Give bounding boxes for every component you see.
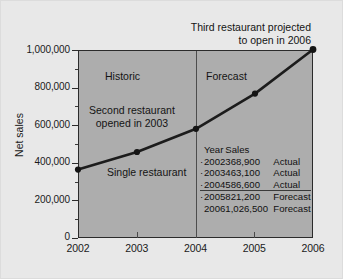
y-tick-mark-600000 xyxy=(72,125,78,126)
inset-data-table: Year Sales ·2002368,900Actual·2003463,10… xyxy=(200,144,311,215)
table-row: ·2003463,100Actual xyxy=(200,167,311,179)
y-tick-mark-400000 xyxy=(72,163,78,164)
x-tick-label-2006: 2006 xyxy=(290,242,336,254)
table-cell-sales: 821,200 xyxy=(225,191,273,203)
table-cell-year: 2006 xyxy=(204,203,225,215)
table-cell-sales: 463,100 xyxy=(225,167,273,179)
table-cell-status: Actual xyxy=(273,179,310,191)
table-cell-status: Actual xyxy=(273,167,310,179)
x-tick-label-2004: 2004 xyxy=(173,242,219,254)
table-cell-year: 2005 xyxy=(204,191,225,203)
y-tick-minor-100000 xyxy=(75,219,78,220)
annotation-third-restaurant-line1: Third restaurant projected xyxy=(191,21,311,34)
x-tick-label-2002: 2002 xyxy=(55,242,101,254)
y-tick-minor-500000 xyxy=(75,144,78,145)
table-header-sales: Sales xyxy=(225,144,273,156)
y-tick-label-200000: 200,000 xyxy=(35,195,70,205)
annotation-third-restaurant-line2: to open in 2006 xyxy=(191,34,311,47)
y-tick-mark-800000 xyxy=(72,88,78,89)
annotation-third-restaurant: Third restaurant projected to open in 20… xyxy=(191,21,311,46)
y-tick-label-1000000: 1,000,000 xyxy=(26,45,70,55)
table-row: ·2005821,200Forecast xyxy=(200,191,311,203)
y-tick-mark-1000000 xyxy=(72,50,78,51)
annotation-second-restaurant-line1: Second restaurant xyxy=(89,104,175,117)
table-cell-status: Actual xyxy=(273,156,310,168)
y-axis-label: Net sales xyxy=(13,100,25,170)
table-cell-sales: 1,026,500 xyxy=(225,203,273,215)
table-header-status xyxy=(273,144,310,156)
annotation-single-restaurant: Single restaurant xyxy=(107,166,186,179)
chart-figure: Net sales 1,000,000 800,000 600,000 400,… xyxy=(0,0,343,279)
x-tick-label-2005: 2005 xyxy=(231,242,277,254)
table-cell-status: Forecast xyxy=(273,191,310,203)
annotation-historic: Historic xyxy=(105,70,140,83)
y-tick-minor-300000 xyxy=(75,182,78,183)
table-row: ·2004586,600Actual xyxy=(200,179,311,191)
table-row: ·2002368,900Actual xyxy=(200,156,311,168)
annotation-forecast: Forecast xyxy=(206,70,247,83)
annotation-second-restaurant-line2: opened in 2003 xyxy=(89,117,175,130)
table-cell-year: 2004 xyxy=(204,179,225,191)
table-cell-year: 2003 xyxy=(204,167,225,179)
y-tick-minor-900000 xyxy=(75,69,78,70)
y-tick-minor-700000 xyxy=(75,106,78,107)
table-cell-status: Forecast xyxy=(273,203,310,215)
table-cell-sales: 586,600 xyxy=(225,179,273,191)
y-tick-mark-200000 xyxy=(72,200,78,201)
x-tick-label-2003: 2003 xyxy=(114,242,160,254)
sales-table: Year Sales ·2002368,900Actual·2003463,10… xyxy=(200,144,311,215)
table-header-year: Year xyxy=(204,144,225,156)
y-tick-label-400000: 400,000 xyxy=(35,157,70,167)
x-tick-mark-2005 xyxy=(254,232,255,238)
y-tick-mark-0 xyxy=(72,238,78,239)
table-row: 20061,026,500Forecast xyxy=(200,203,311,215)
historic-forecast-divider xyxy=(196,51,197,237)
y-tick-label-600000: 600,000 xyxy=(35,120,70,130)
y-tick-label-800000: 800,000 xyxy=(35,82,70,92)
x-tick-mark-2003 xyxy=(137,232,138,238)
table-cell-sales: 368,900 xyxy=(225,156,273,168)
table-header-row: Year Sales xyxy=(200,144,311,156)
table-body: ·2002368,900Actual·2003463,100Actual·200… xyxy=(200,156,311,215)
y-tick-label-0: 0 xyxy=(65,232,70,242)
annotation-second-restaurant: Second restaurant opened in 2003 xyxy=(89,104,175,129)
table-cell-year: 2002 xyxy=(204,156,225,168)
